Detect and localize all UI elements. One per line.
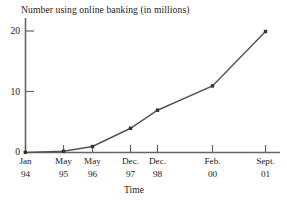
y-tick-label-20: 20 bbox=[0, 25, 20, 36]
data-point-sept-01 bbox=[264, 30, 267, 33]
data-point-dec-98 bbox=[156, 109, 159, 112]
x-tick-label-feb-00: Feb. 00 bbox=[192, 155, 234, 180]
data-point-jan-94 bbox=[24, 151, 27, 154]
x-tick-label-line1: Sept. bbox=[256, 156, 275, 166]
x-tick-label-line1: May bbox=[84, 156, 101, 166]
x-tick-label-line2: 96 bbox=[72, 168, 114, 181]
x-tick-label-line1: Feb. bbox=[204, 156, 220, 166]
x-tick-label-line2: 94 bbox=[5, 168, 47, 181]
y-tick-label-10: 10 bbox=[0, 86, 20, 97]
x-tick-label-line1: Dec. bbox=[149, 156, 166, 166]
x-tick-label-may-96: May 96 bbox=[72, 155, 114, 180]
data-point-may-96 bbox=[91, 145, 94, 148]
data-point-may-95 bbox=[62, 150, 65, 153]
x-tick-label-line2: 00 bbox=[192, 168, 234, 181]
data-line-series bbox=[26, 32, 266, 153]
x-tick-label-line1: May bbox=[55, 156, 72, 166]
x-tick-label-line2: 98 bbox=[137, 168, 179, 181]
x-tick-label-line2: 01 bbox=[245, 168, 287, 181]
x-tick-label-line1: Jan bbox=[19, 156, 31, 166]
x-axis-title: Time bbox=[124, 184, 144, 195]
x-tick-label-sept-01: Sept. 01 bbox=[245, 155, 287, 180]
x-tick-label-dec-98: Dec. 98 bbox=[137, 155, 179, 180]
x-tick-label-jan-94: Jan 94 bbox=[5, 155, 47, 180]
chart-figure: Number using online banking (in millions… bbox=[0, 0, 287, 204]
data-point-feb-00 bbox=[211, 84, 214, 87]
data-point-dec-97 bbox=[129, 127, 132, 130]
